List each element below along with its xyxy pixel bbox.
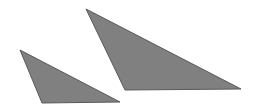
figure-svg xyxy=(0,0,256,110)
figure-canvas xyxy=(0,0,256,110)
